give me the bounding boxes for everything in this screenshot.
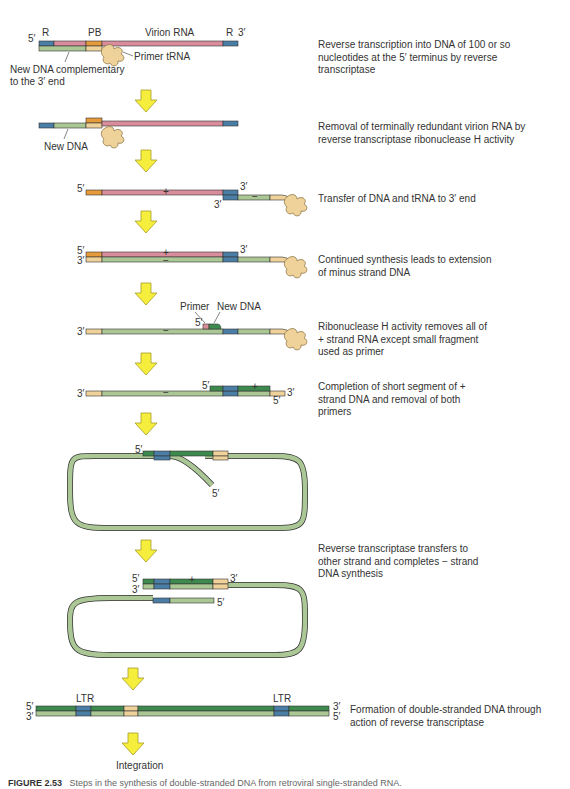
svg-text:−: −: [252, 191, 258, 202]
svg-text:3′: 3′: [240, 181, 248, 192]
svg-text:3′: 3′: [132, 584, 140, 595]
svg-text:5′: 5′: [202, 380, 210, 391]
step1-description: Reverse transcription into DNA of 100 or…: [318, 39, 548, 77]
svg-text:+: +: [189, 574, 195, 585]
label-integration: Integration: [116, 760, 163, 771]
label-pb: PB: [88, 27, 102, 38]
svg-text:+: +: [252, 381, 258, 392]
arrow-icon: [135, 211, 157, 233]
svg-text:LTR: LTR: [273, 693, 291, 704]
arrow-icon: [135, 540, 157, 562]
svg-text:+: +: [163, 186, 169, 197]
svg-text:3′: 3′: [77, 255, 85, 266]
svg-text:LTR: LTR: [76, 693, 94, 704]
figure-caption: FIGURE 2.53 Steps in the synthesis of do…: [8, 778, 402, 788]
step6-description: Completion of short segment of + strand …: [318, 381, 488, 419]
step8-description: Reverse transcriptase transfers to other…: [318, 543, 488, 581]
step7-circular-molecule: [70, 451, 305, 528]
arrow-icon: [135, 283, 157, 305]
label-r-right: R: [226, 27, 233, 38]
label-5prime: 5′: [28, 33, 36, 44]
arrow-icon: [135, 150, 157, 172]
svg-text:3′: 3′: [240, 244, 248, 255]
svg-text:New DNA: New DNA: [217, 301, 261, 312]
label-new-dna-complementary: New DNA complementary: [10, 64, 124, 75]
svg-text:−: −: [163, 325, 169, 336]
svg-text:5′: 5′: [333, 711, 341, 722]
svg-text:3′: 3′: [214, 199, 222, 210]
arrow-icon: [122, 668, 144, 690]
svg-text:3′: 3′: [287, 387, 295, 398]
svg-text:Primer: Primer: [180, 301, 210, 312]
svg-text:5′: 5′: [195, 317, 203, 328]
svg-text:−: −: [163, 255, 169, 266]
label-virion-rna: Virion RNA: [145, 27, 195, 38]
svg-text:3′: 3′: [77, 326, 85, 337]
svg-text:5′: 5′: [273, 395, 281, 406]
trna-icon: [284, 329, 306, 350]
step4-description: Continued synthesis leads to extension o…: [318, 254, 498, 279]
svg-text:5′: 5′: [77, 183, 85, 194]
step5-description: Ribonuclease H activity removes all of +…: [318, 321, 493, 359]
svg-text:5′: 5′: [217, 597, 225, 608]
trna-icon: [101, 45, 123, 66]
step3-description: Transfer of DNA and tRNA to 3′ end: [318, 193, 548, 206]
arrow-icon: [122, 733, 144, 755]
figure-number: FIGURE 2.53: [8, 778, 62, 788]
step9-double-stranded-dna: [36, 706, 329, 716]
arrow-icon: [135, 413, 157, 435]
step3-molecule: [86, 190, 307, 216]
svg-text:3′: 3′: [26, 711, 34, 722]
figure-caption-text: Steps in the synthesis of double-strande…: [70, 778, 402, 788]
arrow-icon: [135, 353, 157, 375]
svg-text:3′: 3′: [230, 573, 238, 584]
step8-molecule: [70, 579, 305, 655]
trna-icon: [101, 127, 123, 148]
svg-text:−: −: [163, 387, 169, 398]
step4-molecule: [86, 252, 307, 278]
label-new-dna-3end: to the 3′ end: [10, 76, 65, 87]
svg-text:5′: 5′: [212, 488, 220, 499]
label-new-dna: New DNA: [44, 141, 88, 152]
trna-icon: [284, 195, 306, 216]
svg-text:3′: 3′: [77, 388, 85, 399]
label-primer-trna: Primer tRNA: [134, 51, 190, 62]
arrow-icon: [135, 90, 157, 112]
svg-text:5′: 5′: [135, 444, 143, 455]
svg-text:5′: 5′: [132, 573, 140, 584]
label-3prime: 3′: [238, 27, 246, 38]
step2-description: Removal of terminally redundant virion R…: [318, 121, 548, 146]
trna-icon: [284, 257, 306, 278]
label-r-left: R: [42, 27, 49, 38]
step9-description: Formation of double-stranded DNA through…: [350, 704, 570, 729]
